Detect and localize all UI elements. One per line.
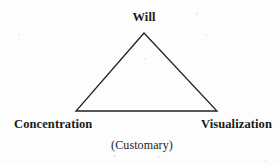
triangle-outline xyxy=(76,33,217,111)
vertex-label-will: Will xyxy=(132,11,155,24)
diagram-caption: (Customary) xyxy=(111,139,173,151)
vertex-label-concentration: Concentration xyxy=(14,118,92,131)
triangle-diagram: Will Concentration Visualization (Custom… xyxy=(0,0,280,165)
vertex-label-visualization: Visualization xyxy=(201,118,272,131)
